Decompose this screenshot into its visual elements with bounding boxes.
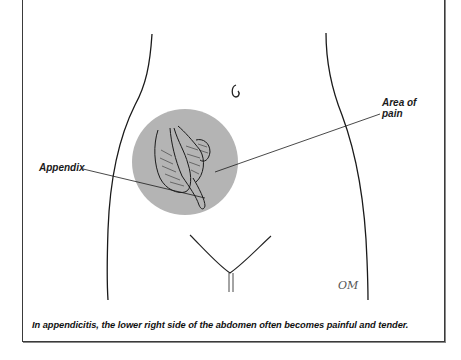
appendix-label: Appendix (39, 162, 85, 173)
figure-caption: In appendicitis, the lower right side of… (32, 320, 442, 330)
area-of-pain-line1: Area of (382, 97, 442, 108)
thigh-gap-line (229, 273, 233, 292)
pain-area-circle (132, 109, 238, 215)
area-of-pain-label: Area of pain (382, 97, 442, 119)
area-of-pain-line2: pain (382, 108, 442, 119)
abdomen-illustration (0, 0, 461, 360)
artist-signature: OM (338, 279, 358, 292)
